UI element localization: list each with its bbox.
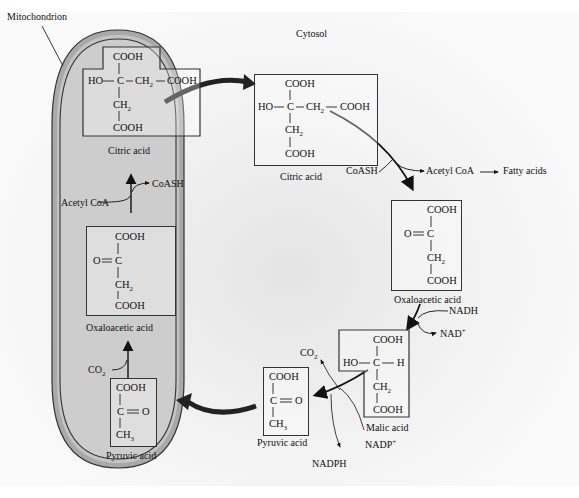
mito-co2-label: CO2: [88, 365, 105, 378]
mito-pyruvic-acid-label: Pyruvic acid: [106, 451, 156, 461]
mito-coash-label: CoASH: [152, 179, 184, 189]
nadh-label: NADH: [449, 306, 478, 316]
cytosol-label: Cytosol: [296, 29, 327, 39]
mito-citric-acid-label: Citric acid: [108, 146, 150, 156]
mitochondrion-leader-line: [42, 26, 63, 66]
cytosol-co2-label: CO2: [300, 348, 317, 361]
mito-acetyl-coa-label: Acetyl CoA: [61, 198, 109, 208]
cytosol-citric-box: [254, 74, 378, 166]
decarboxylation-arrow: [316, 370, 368, 395]
cytosol-acetyl-coa-label: Acetyl CoA: [426, 166, 474, 176]
cytosol-malic-acid-label: Malic acid: [366, 423, 408, 433]
mitochondrion-label: Mitochondrion: [7, 12, 67, 22]
cytosol-coash-label: CoASH: [346, 166, 378, 176]
fatty-acids-label: Fatty acids: [503, 166, 547, 176]
cytosol-pyruvic-acid-label: Pyruvic acid: [257, 438, 307, 448]
nad-plus-label: NAD+: [440, 328, 466, 339]
cytosol-citric-acid-label: Citric acid: [280, 172, 322, 182]
mito-oxaloacetic-acid-label: Oxaloacetic acid: [86, 323, 153, 333]
cytosol-oxaloacetic-acid-label: Oxaloacetic acid: [394, 295, 461, 305]
nadph-label: NADPH: [312, 459, 346, 469]
nadp-plus-label: NADP+: [365, 439, 396, 450]
